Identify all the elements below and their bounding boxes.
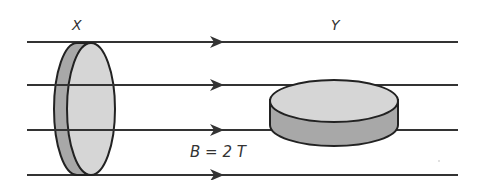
disc-x [54,43,115,175]
field-strength-label: B = 2 T [190,143,246,161]
disc-y [270,80,398,146]
disc-y-label: Y [331,17,340,33]
disc-x-label: X [72,17,82,33]
